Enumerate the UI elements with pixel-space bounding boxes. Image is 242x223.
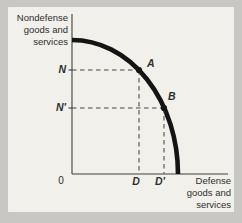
- origin-label: 0: [55, 175, 67, 186]
- x-axis-label-line-2: goods and: [151, 187, 231, 199]
- y-tick-label-n-prime: N': [44, 102, 66, 113]
- x-tick-label-d-prime: D': [151, 176, 169, 187]
- y-axis-label-line-3: services: [6, 36, 68, 48]
- x-tick-label-d: D: [128, 176, 144, 187]
- y-tick-label-n: N: [46, 64, 66, 75]
- point-dot-a: [136, 67, 142, 73]
- y-axis-label: Nondefense goods and services: [6, 12, 68, 48]
- y-axis-label-line-2: goods and: [6, 24, 68, 36]
- point-label-b: B: [168, 91, 176, 102]
- x-axis-label-line-3: services: [151, 199, 231, 211]
- point-dot-b: [161, 105, 167, 111]
- point-label-a: A: [147, 58, 155, 69]
- ppf-figure: Nondefense goods and services Defense go…: [0, 0, 242, 223]
- y-axis-label-line-1: Nondefense: [6, 12, 68, 24]
